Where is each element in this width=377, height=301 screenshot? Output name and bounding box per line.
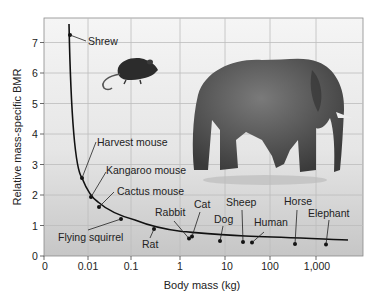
label-kangaroo-mouse: Kangaroo mouse (106, 164, 186, 176)
y-axis: 0 1 2 3 4 5 6 7 Relative mass-specific B… (11, 37, 44, 263)
svg-text:0.01: 0.01 (78, 260, 99, 272)
label-sheep: Sheep (226, 196, 257, 208)
label-shrew: Shrew (88, 35, 118, 47)
svg-text:100: 100 (261, 260, 279, 272)
svg-text:1,000: 1,000 (304, 260, 330, 272)
svg-text:0.1: 0.1 (124, 260, 139, 272)
label-dog: Dog (214, 213, 233, 225)
label-cat: Cat (194, 198, 210, 210)
label-rabbit: Rabbit (155, 206, 185, 218)
label-flying-squirrel: Flying squirrel (58, 231, 123, 243)
y-axis-label: Relative mass-specific BMR (11, 68, 23, 205)
svg-text:2: 2 (32, 189, 38, 201)
svg-text:0: 0 (32, 250, 38, 262)
svg-text:7: 7 (32, 37, 38, 49)
svg-text:3: 3 (32, 159, 38, 171)
svg-text:1: 1 (177, 260, 183, 272)
x-axis-label: Body mass (kg) (164, 279, 240, 291)
label-horse: Horse (284, 195, 312, 207)
label-harvest-mouse: Harvest mouse (97, 136, 168, 148)
label-cactus-mouse: Cactus mouse (117, 185, 184, 197)
label-rat: Rat (142, 238, 158, 250)
label-human: Human (254, 216, 288, 228)
svg-text:1: 1 (32, 220, 38, 232)
svg-text:0: 0 (42, 260, 48, 272)
svg-text:5: 5 (32, 98, 38, 110)
svg-text:4: 4 (32, 128, 38, 140)
svg-text:10: 10 (221, 260, 233, 272)
x-axis: 0 0.01 0.1 1 10 100 1,000 Body mass (kg) (42, 256, 330, 291)
label-elephant: Elephant (308, 207, 350, 219)
svg-text:6: 6 (32, 67, 38, 79)
bmr-chart: Shrew Harvest mouse Kangaroo mouse Cactu… (0, 0, 377, 301)
